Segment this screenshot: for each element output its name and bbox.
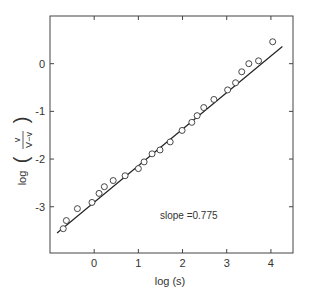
x-tick-label: 1 bbox=[135, 257, 141, 269]
data-point-circle bbox=[256, 58, 262, 64]
y-axis-label-prefix: log bbox=[16, 171, 28, 186]
data-point-circle bbox=[225, 87, 231, 93]
data-point-circle bbox=[179, 127, 185, 133]
data-point-circle bbox=[201, 105, 207, 111]
data-point-circle bbox=[60, 226, 66, 232]
data-point-circle bbox=[189, 119, 195, 125]
y-axis-label: log ( v V−v ) bbox=[10, 117, 34, 186]
data-point-circle bbox=[167, 139, 173, 145]
data-point-circle bbox=[149, 151, 155, 157]
data-point-circle bbox=[270, 39, 276, 45]
data-point-circle bbox=[110, 178, 116, 184]
y-axis-label-numerator: v bbox=[12, 137, 22, 142]
y-axis-ticks: 0-1-2-3 bbox=[35, 58, 293, 213]
data-point-circle bbox=[194, 113, 200, 119]
x-tick-label: 2 bbox=[179, 257, 185, 269]
x-axis-label: log (s) bbox=[155, 275, 186, 287]
y-tick-label: -1 bbox=[35, 105, 45, 117]
x-axis-ticks: 01234 bbox=[91, 16, 274, 269]
data-point-circle bbox=[63, 218, 69, 224]
data-point-circle bbox=[101, 184, 107, 190]
y-axis-label-denominator: V−v bbox=[24, 132, 34, 148]
data-point-circle bbox=[239, 69, 245, 75]
data-point-circle bbox=[89, 199, 95, 205]
data-point-circle bbox=[135, 166, 141, 172]
x-tick-label: 3 bbox=[224, 257, 230, 269]
slope-annotation: slope =0.775 bbox=[160, 210, 218, 221]
data-points bbox=[60, 39, 275, 232]
y-tick-label: -3 bbox=[35, 201, 45, 213]
data-point-circle bbox=[141, 159, 147, 165]
y-tick-label: 0 bbox=[39, 58, 45, 70]
y-axis-label-paren-open: ( bbox=[10, 156, 32, 163]
x-tick-label: 4 bbox=[268, 257, 274, 269]
data-point-circle bbox=[96, 190, 102, 196]
y-tick-label: -2 bbox=[35, 153, 45, 165]
data-point-circle bbox=[122, 173, 128, 179]
data-point-circle bbox=[246, 61, 252, 67]
data-point-circle bbox=[74, 206, 80, 212]
data-point-circle bbox=[211, 96, 217, 102]
x-tick-label: 0 bbox=[91, 257, 97, 269]
y-axis-label-paren-close: ) bbox=[10, 117, 32, 124]
data-point-circle bbox=[233, 80, 239, 86]
scatter-chart: 01234 0-1-2-3 log (s) log ( v V−v ) slop… bbox=[0, 0, 310, 293]
data-point-circle bbox=[157, 147, 163, 153]
